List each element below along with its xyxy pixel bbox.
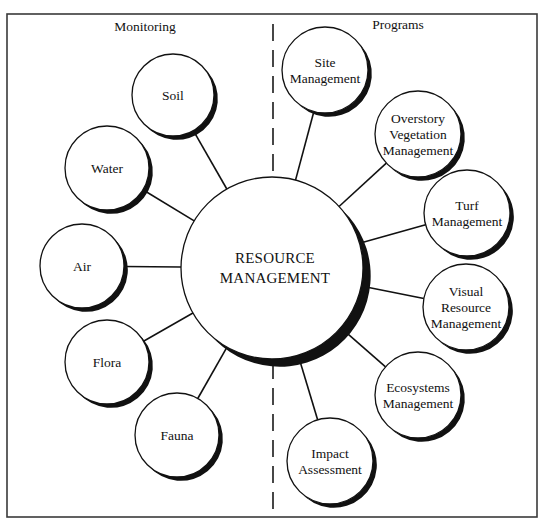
- node-label: Flora: [93, 355, 122, 370]
- node-label: Management: [383, 396, 454, 411]
- hub-circle: [181, 177, 363, 359]
- node-label: Management: [290, 71, 361, 86]
- program-node-site-management: SiteManagement: [282, 27, 372, 117]
- hub-label: RESOURCE: [235, 250, 315, 266]
- node-label: Fauna: [161, 428, 194, 443]
- node-label: Air: [73, 259, 92, 274]
- connector-flora: [143, 313, 192, 341]
- connector-impact-assessment: [298, 355, 317, 420]
- node-label: Overstory: [391, 111, 445, 126]
- connector-water: [143, 190, 194, 221]
- connector-fauna: [198, 347, 227, 398]
- node-label: Site: [314, 55, 335, 70]
- node-label: Vegetation: [389, 127, 447, 142]
- monitoring-node-water: Water: [65, 126, 153, 214]
- connector-overstory-vegetation-management: [339, 163, 386, 206]
- node-label: Visual: [449, 284, 484, 299]
- section-label-programs: Programs: [372, 17, 424, 32]
- connector-turf-management: [360, 225, 426, 244]
- node-label: Management: [431, 316, 502, 331]
- monitoring-node-flora: Flora: [65, 320, 153, 408]
- program-node-turf-management: TurfManagement: [424, 170, 514, 260]
- node-circle: [287, 418, 373, 504]
- program-node-ecosystems-management: EcosystemsManagement: [375, 352, 465, 442]
- section-label-monitoring: Monitoring: [114, 19, 176, 34]
- program-node-impact-assessment: ImpactAssessment: [287, 418, 377, 508]
- node-label: Turf: [455, 198, 479, 213]
- node-circle: [282, 27, 368, 113]
- connector-soil: [193, 131, 226, 189]
- hub-node-resource-management: RESOURCEMANAGEMENT: [181, 177, 371, 367]
- node-label: Impact: [311, 446, 349, 461]
- hub-label: MANAGEMENT: [220, 270, 330, 286]
- node-label: Management: [383, 143, 454, 158]
- node-label: Water: [91, 161, 123, 176]
- monitoring-node-soil: Soil: [132, 54, 218, 140]
- connector-visual-resource-management: [361, 286, 424, 299]
- program-node-visual-resource-management: VisualResourceManagement: [423, 264, 513, 354]
- connector-site-management: [296, 112, 314, 181]
- node-label: Soil: [162, 88, 184, 103]
- monitoring-node-air: Air: [40, 224, 128, 312]
- resource-management-diagram: Monitoring Programs SoilWaterAirFloraFau…: [0, 0, 542, 527]
- node-label: Resource: [441, 300, 491, 315]
- program-node-overstory-vegetation-management: OverstoryVegetationManagement: [375, 91, 465, 181]
- node-label: Assessment: [298, 462, 362, 477]
- node-label: Ecosystems: [386, 380, 450, 395]
- node-circle: [375, 352, 461, 438]
- node-circle: [424, 170, 510, 256]
- node-label: Management: [432, 214, 503, 229]
- connector-air: [124, 266, 181, 267]
- monitoring-node-fauna: Fauna: [135, 393, 223, 481]
